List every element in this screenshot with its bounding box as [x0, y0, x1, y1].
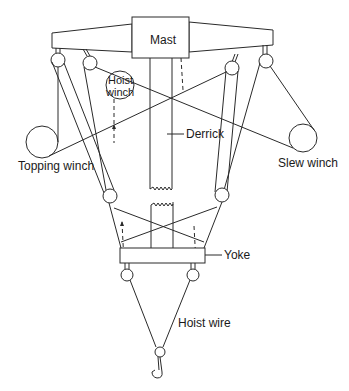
hoist-winch-label-1: Hoist: [108, 74, 133, 86]
pulley-lower-right: [187, 269, 199, 281]
hoist-winch-label-2: winch: [105, 86, 134, 98]
mast-label: Mast: [150, 33, 177, 47]
hoist-winch: Hoist winch: [105, 71, 134, 99]
mast: Mast: [132, 17, 189, 58]
derrick-crane-diagram: Mast Derrick Hoist winch: [0, 0, 349, 391]
slew-winch: Slew winch: [278, 124, 338, 170]
hoist-wire: Hoist wire: [130, 280, 231, 347]
pulley-top-right-outer: [259, 54, 273, 68]
derrick-label: Derrick: [186, 127, 225, 141]
yoke: Yoke: [120, 248, 251, 263]
pulley-lower-left: [121, 269, 133, 281]
yoke-label: Yoke: [224, 248, 251, 262]
pulley-mid-left: [103, 189, 117, 203]
topping-winch-label: Topping winch: [18, 159, 94, 173]
arrow-up-icon: [120, 221, 124, 226]
pulley-top-left-inner: [83, 56, 97, 70]
hook-icon: [152, 347, 165, 378]
pulley-top-right-inner: [225, 61, 239, 75]
slew-winch-label: Slew winch: [278, 156, 338, 170]
topping-winch: Topping winch: [18, 126, 94, 173]
derrick-lower: [151, 202, 173, 248]
hoist-wire-label: Hoist wire: [178, 316, 231, 330]
derrick-upper: [150, 58, 172, 190]
pulley-mid-right: [215, 188, 229, 202]
